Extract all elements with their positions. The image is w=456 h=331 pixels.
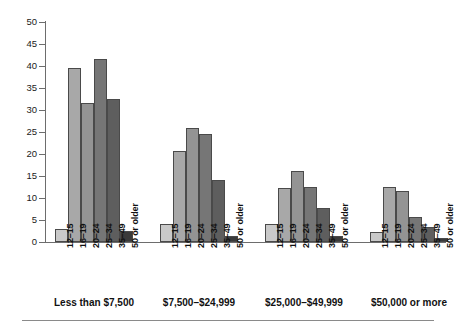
y-axis-tick-label: 45 xyxy=(3,39,37,49)
x-axis-subcategory-label: 35–49 xyxy=(327,223,337,248)
x-axis-subcategory-label: 12–15 xyxy=(380,223,390,248)
x-axis-subcategory-label: 20–24 xyxy=(301,223,311,248)
x-axis-subcategory-label: 35–49 xyxy=(222,223,232,248)
bottom-rule xyxy=(22,320,434,321)
x-axis-group-label: $50,000 or more xyxy=(349,297,456,308)
x-axis-subcategory-label: 20–24 xyxy=(91,223,101,248)
x-axis-subcategory-label: 16–19 xyxy=(183,223,193,248)
x-axis-subcategory-label: 50 or older xyxy=(130,203,140,248)
x-axis-subcategory-label: 50 or older xyxy=(340,203,350,248)
y-axis-tick-label-holder: 15 xyxy=(0,171,37,181)
y-axis-line xyxy=(45,21,46,243)
y-axis-tick-label-holder: 50 xyxy=(0,17,37,27)
bar xyxy=(68,68,81,242)
x-axis-subcategory-label: 16–19 xyxy=(288,223,298,248)
x-axis-subcategory-label: 35–49 xyxy=(432,223,442,248)
x-axis-subcategory-label: 20–24 xyxy=(406,223,416,248)
y-axis-tick-label: 50 xyxy=(3,17,37,27)
y-axis-tick-label-holder: 25 xyxy=(0,127,37,137)
y-axis-tick-label-holder: 5 xyxy=(0,215,37,225)
y-axis-tick-label: 35 xyxy=(3,83,37,93)
x-axis-subcategory-label: 20–24 xyxy=(196,223,206,248)
x-axis-subcategory-label: 16–19 xyxy=(393,223,403,248)
x-axis-subcategory-label: 50 or older xyxy=(445,203,455,248)
x-axis-subcategory-label: 16–19 xyxy=(78,223,88,248)
y-axis-tick-label: 5 xyxy=(3,215,37,225)
x-axis-subcategory-label: 25–34 xyxy=(419,223,429,248)
x-axis-subcategory-label: 12–15 xyxy=(275,223,285,248)
x-axis-subcategory-label: 35–49 xyxy=(117,223,127,248)
y-axis-tick-label: 10 xyxy=(3,193,37,203)
bar-group xyxy=(265,22,343,242)
x-axis-group-label: $7,500–$24,999 xyxy=(139,297,259,308)
bar-group xyxy=(160,22,238,242)
bar xyxy=(107,99,120,242)
bar-group xyxy=(55,22,133,242)
x-axis-subcategory-label: 12–15 xyxy=(170,223,180,248)
y-axis-tick-label-holder: 35 xyxy=(0,83,37,93)
y-axis-tick-label: 20 xyxy=(3,149,37,159)
bar xyxy=(94,59,107,242)
y-axis-tick-label-holder: 10 xyxy=(0,193,37,203)
y-axis-tick-label-holder: 40 xyxy=(0,61,37,71)
y-axis-tick-label-holder: 45 xyxy=(0,39,37,49)
x-axis-subcategory-label: 50 or older xyxy=(235,203,245,248)
x-axis-subcategory-label: 25–34 xyxy=(314,223,324,248)
x-axis-group-label: $25,000–$49,999 xyxy=(244,297,364,308)
bar-chart: 05101520253035404550 12–1516–1920–2425–3… xyxy=(0,0,456,331)
y-axis-tick-label: 40 xyxy=(3,61,37,71)
y-axis-tick-label: 30 xyxy=(3,105,37,115)
bar xyxy=(81,103,94,242)
y-axis-tick-label-holder: 20 xyxy=(0,149,37,159)
x-axis-subcategory-label: 12–15 xyxy=(65,223,75,248)
y-axis-tick-label: 0 xyxy=(3,237,37,247)
y-axis-tick-label-holder: 0 xyxy=(0,237,37,247)
y-axis-tick-label: 25 xyxy=(3,127,37,137)
x-axis-subcategory-label: 25–34 xyxy=(209,223,219,248)
y-axis-tick-label: 15 xyxy=(3,171,37,181)
x-axis-group-label: Less than $7,500 xyxy=(34,297,154,308)
x-axis-subcategory-label: 25–34 xyxy=(104,223,114,248)
bar-group xyxy=(370,22,448,242)
y-axis-tick-label-holder: 30 xyxy=(0,105,37,115)
